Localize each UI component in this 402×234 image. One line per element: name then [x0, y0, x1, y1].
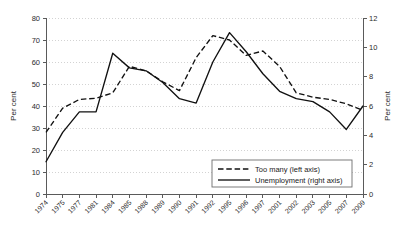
y-tick-label-right: 4	[369, 131, 373, 140]
x-tick-label: 1989	[150, 199, 166, 215]
line-chart: 0102030405060708002468101219741975197719…	[0, 0, 402, 234]
x-tick-label: 1974	[33, 199, 49, 215]
y-tick-label-left: 40	[32, 102, 40, 111]
x-tick-label: 2001	[267, 199, 283, 215]
y-tick-label-left: 30	[32, 124, 40, 133]
grid-lines	[46, 18, 363, 172]
x-tick-label: 1990	[167, 199, 183, 215]
x-tick-label: 2003	[300, 199, 316, 215]
y-tick-label-left: 0	[36, 190, 40, 199]
y-tick-label-right: 10	[369, 43, 377, 52]
data-series	[46, 33, 363, 162]
y-tick-label-right: 8	[369, 72, 373, 81]
y-tick-label-left: 50	[32, 80, 40, 89]
y-tick-label-right: 12	[369, 14, 377, 23]
y-tick-label-left: 70	[32, 36, 40, 45]
x-tick-label: 1984	[100, 199, 116, 215]
chart-container: 0102030405060708002468101219741975197719…	[0, 0, 402, 234]
x-tick-label: 1992	[200, 199, 216, 215]
y-tick-label-left: 20	[32, 146, 40, 155]
x-tick-label: 1985	[117, 199, 133, 215]
x-tick-label: 1991	[183, 199, 199, 215]
legend-label-too-many: Too many (left axis)	[255, 165, 321, 174]
y-tick-label-left: 80	[32, 14, 40, 23]
y-tick-label-right: 0	[369, 190, 373, 199]
x-tick-label: 1988	[133, 199, 149, 215]
x-tick-label: 1977	[67, 199, 83, 215]
x-tick-label: 1997	[250, 199, 266, 215]
x-tick-label: 1975	[50, 199, 66, 215]
y-axis-label-left: Per cent	[9, 90, 18, 121]
y-tick-label-left: 10	[32, 168, 40, 177]
y-tick-label-right: 2	[369, 160, 373, 169]
chart-legend: Too many (left axis)Unemployment (right …	[212, 160, 352, 187]
x-tick-label: 1996	[233, 199, 249, 215]
legend-label-unemployment: Unemployment (right axis)	[255, 176, 343, 185]
x-tick-label: 2005	[317, 199, 333, 215]
x-tick-label: 2009	[350, 199, 366, 215]
x-tick-label: 1995	[217, 199, 233, 215]
y-tick-label-left: 60	[32, 58, 40, 67]
x-tick-label: 2007	[334, 199, 350, 215]
x-tick-label: 1981	[83, 199, 99, 215]
x-tick-label: 2002	[284, 199, 300, 215]
y-axis-label-right: Per cent	[383, 90, 392, 121]
y-tick-label-right: 6	[369, 102, 373, 111]
